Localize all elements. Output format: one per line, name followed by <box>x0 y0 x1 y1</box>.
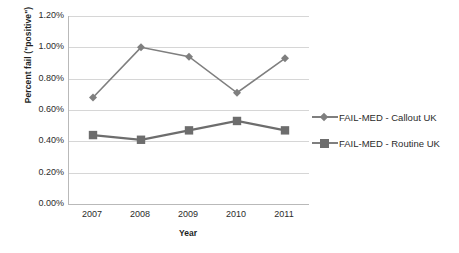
legend-marker-diamond-icon <box>312 110 338 124</box>
x-axis-tick-label: 2008 <box>120 209 160 219</box>
chart-legend: FAIL-MED - Callout UK FAIL-MED - Routine… <box>312 104 457 156</box>
y-axis-tick-label: 1.00% <box>20 42 64 51</box>
data-point-square-marker <box>89 131 97 139</box>
y-axis-tick-label: 0.80% <box>20 74 64 83</box>
plot-area <box>68 16 309 205</box>
y-axis-tick-label: 0.00% <box>20 199 64 208</box>
series-layer <box>69 16 309 204</box>
data-point-square-marker <box>281 126 289 134</box>
data-point-square-marker <box>233 117 241 125</box>
y-axis-tick-label: 0.20% <box>20 168 64 177</box>
series-1 <box>89 43 289 101</box>
x-axis-title: Year <box>68 228 308 238</box>
legend-marker-square-icon <box>312 136 338 150</box>
y-axis-tick-label: 1.20% <box>20 11 64 20</box>
legend-item-callout-uk[interactable]: FAIL-MED - Callout UK <box>312 104 457 130</box>
chart-container: Percent fail ("positive") 0.00%0.20%0.40… <box>0 0 459 253</box>
x-axis-tick-label: 2011 <box>264 209 304 219</box>
x-axis-tick-label: 2010 <box>216 209 256 219</box>
x-axis-tick-label: 2009 <box>168 209 208 219</box>
data-point-square-marker <box>185 126 193 134</box>
data-point-square-marker <box>137 136 145 144</box>
legend-label-routine-uk: FAIL-MED - Routine UK <box>338 138 440 149</box>
x-axis-tick-labels: 20072008200920102011 <box>68 209 308 225</box>
x-axis-tick-label: 2007 <box>72 209 112 219</box>
legend-label-callout-uk: FAIL-MED - Callout UK <box>338 112 437 123</box>
y-axis-tick-label: 0.40% <box>20 136 64 145</box>
y-axis-tick-labels: 0.00%0.20%0.40%0.60%0.80%1.00%1.20% <box>20 0 64 253</box>
legend-item-routine-uk[interactable]: FAIL-MED - Routine UK <box>312 130 457 156</box>
y-axis-tick-label: 0.60% <box>20 105 64 114</box>
series-2 <box>89 117 289 144</box>
